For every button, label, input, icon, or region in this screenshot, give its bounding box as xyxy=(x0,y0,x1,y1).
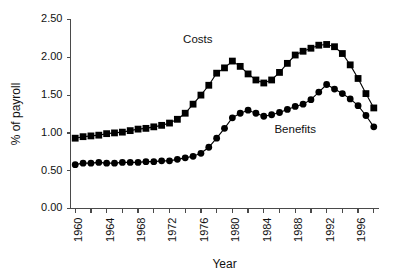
data-point xyxy=(158,157,165,164)
data-point xyxy=(363,112,370,119)
x-tick-label: 1996 xyxy=(355,218,367,242)
data-point xyxy=(190,153,197,160)
data-point xyxy=(221,64,228,71)
data-point xyxy=(229,114,236,121)
data-point xyxy=(213,135,220,142)
data-point xyxy=(308,45,315,52)
data-point xyxy=(127,127,134,134)
y-tick-label: 1.50 xyxy=(41,88,62,100)
data-point xyxy=(143,158,150,165)
data-point xyxy=(135,159,142,166)
line-chart: 0.000.501.001.502.002.50 196019641968197… xyxy=(0,0,412,276)
data-point xyxy=(213,70,220,77)
data-point xyxy=(300,101,307,108)
data-point xyxy=(276,109,283,116)
data-point xyxy=(323,41,330,48)
data-point xyxy=(331,86,338,93)
x-axis-tick-labels: 1960196419681972197619801984198819921996 xyxy=(72,218,367,242)
data-point xyxy=(174,156,181,163)
data-point xyxy=(88,160,95,167)
x-tick-label: 1988 xyxy=(292,218,304,242)
x-tick-label: 1980 xyxy=(229,218,241,242)
data-point xyxy=(323,81,330,88)
data-point xyxy=(237,63,244,70)
x-tick-label: 1984 xyxy=(261,218,273,242)
data-point xyxy=(292,52,299,59)
y-tick-label: 0.50 xyxy=(41,164,62,176)
data-point xyxy=(260,113,267,120)
data-point xyxy=(72,135,79,142)
data-point xyxy=(205,144,212,151)
data-point xyxy=(174,116,181,123)
data-point xyxy=(315,89,322,96)
data-point xyxy=(237,110,244,117)
data-point xyxy=(331,43,338,50)
x-tick-label: 1960 xyxy=(72,218,84,242)
data-point xyxy=(150,123,157,130)
data-point xyxy=(103,130,110,137)
data-point xyxy=(158,122,165,129)
data-point xyxy=(103,160,110,167)
data-point xyxy=(166,120,173,127)
data-point xyxy=(284,60,291,67)
data-point xyxy=(268,111,275,118)
data-point xyxy=(300,48,307,55)
data-point xyxy=(182,154,189,161)
data-point xyxy=(347,95,354,102)
benefits-series-label: Benefits xyxy=(274,123,316,135)
data-point xyxy=(308,96,315,103)
data-point xyxy=(339,90,346,97)
data-point xyxy=(127,159,134,166)
data-point xyxy=(150,158,157,165)
data-point xyxy=(221,125,228,132)
data-point xyxy=(292,103,299,110)
x-axis-title: Year xyxy=(212,257,236,271)
x-tick-label: 1976 xyxy=(198,218,210,242)
data-point xyxy=(72,161,79,168)
data-point xyxy=(190,101,197,108)
data-point xyxy=(198,92,205,99)
data-point xyxy=(347,61,354,68)
data-point xyxy=(111,130,118,137)
data-point xyxy=(253,77,260,84)
data-point xyxy=(143,125,150,132)
y-tick-label: 0.00 xyxy=(41,201,62,213)
data-point xyxy=(88,133,95,140)
data-point xyxy=(268,77,275,84)
y-tick-label: 1.00 xyxy=(41,126,62,138)
data-point xyxy=(260,80,267,87)
x-tick-label: 1992 xyxy=(324,218,336,242)
data-point xyxy=(245,71,252,78)
data-point xyxy=(229,58,236,65)
series-line-benefits xyxy=(75,85,374,165)
data-point xyxy=(166,157,173,164)
series-layer xyxy=(72,41,377,168)
data-point xyxy=(315,42,322,49)
series-line-costs xyxy=(75,44,374,138)
data-point xyxy=(80,160,87,167)
y-tick-label: 2.00 xyxy=(41,50,62,62)
data-point xyxy=(363,90,370,97)
costs-series-label: Costs xyxy=(183,33,213,45)
y-axis-tick-labels: 0.000.501.001.502.002.50 xyxy=(41,12,62,213)
chart-figure: 0.000.501.001.502.002.50 196019641968197… xyxy=(0,0,412,276)
data-point xyxy=(205,82,212,89)
data-point xyxy=(355,75,362,82)
data-point xyxy=(276,69,283,76)
data-point xyxy=(284,106,291,113)
data-point xyxy=(370,123,377,130)
data-point xyxy=(95,159,102,166)
data-point xyxy=(339,50,346,57)
data-point xyxy=(370,105,377,112)
x-tick-label: 1972 xyxy=(166,218,178,242)
y-axis-title: % of payroll xyxy=(9,83,23,146)
x-tick-label: 1964 xyxy=(104,218,116,242)
data-point xyxy=(135,126,142,133)
data-point xyxy=(111,160,118,167)
x-tick-label: 1968 xyxy=(135,218,147,242)
data-point xyxy=(355,102,362,109)
data-point xyxy=(119,129,126,136)
data-point xyxy=(245,107,252,114)
data-point xyxy=(80,133,87,140)
data-point xyxy=(182,110,189,117)
